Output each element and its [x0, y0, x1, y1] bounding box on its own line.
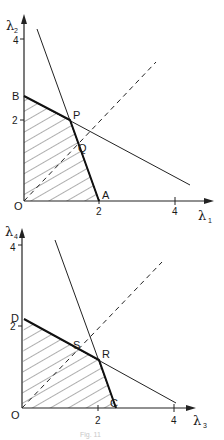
x-axis-subscript-bottom: 3	[203, 422, 207, 429]
point-label-D: D	[11, 312, 19, 324]
diagram-bottom: 4 2 2 4 O D S R C λ 4 λ 3	[5, 224, 207, 429]
y-tick-label-4-bottom: 4	[10, 242, 16, 253]
x-axis-label-bottom: λ	[193, 413, 201, 428]
y-axis-label-top: λ	[6, 18, 14, 33]
point-label-B: B	[12, 90, 19, 102]
feasible-region-bottom	[22, 319, 116, 408]
x-axis-subscript-top: 1	[208, 217, 212, 224]
figure-canvas: 4 2 2 4 O B P Q A λ 2 λ 1 4 2 2 4 O D S …	[0, 0, 224, 440]
y-axis-label-bottom: λ	[5, 224, 13, 239]
y-axis-arrow-icon	[21, 14, 27, 24]
point-label-A: A	[102, 189, 110, 201]
y-tick-label-2-top: 2	[12, 115, 18, 126]
point-label-C: C	[110, 397, 118, 409]
x-tick-label-2-top: 2	[96, 206, 102, 217]
y-tick-label-4-top: 4	[13, 35, 19, 46]
point-label-P: P	[73, 109, 80, 121]
y-axis-subscript-top: 2	[14, 27, 18, 34]
y-axis-arrow-icon	[19, 228, 25, 238]
diagram-top: 4 2 2 4 O B P Q A λ 2 λ 1	[6, 14, 214, 224]
point-label-R: R	[102, 348, 110, 360]
y-axis-subscript-bottom: 4	[14, 233, 18, 240]
x-axis-arrow-icon	[204, 198, 214, 204]
feasible-region-top	[24, 96, 99, 201]
x-tick-label-2-bottom: 2	[95, 415, 101, 426]
x-axis-arrow-icon	[186, 405, 196, 411]
figure-caption: Fig. 11	[80, 431, 101, 439]
point-label-S: S	[73, 339, 80, 351]
origin-label-top: O	[14, 200, 23, 212]
point-label-Q: Q	[78, 142, 87, 154]
origin-label-bottom: O	[11, 409, 20, 421]
x-axis-label-top: λ	[198, 208, 206, 223]
x-tick-label-4-top: 4	[172, 206, 178, 217]
x-tick-label-4-bottom: 4	[171, 415, 177, 426]
